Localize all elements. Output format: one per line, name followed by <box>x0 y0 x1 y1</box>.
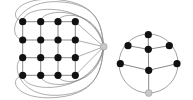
left-edges <box>15 0 104 98</box>
grid-node <box>72 18 79 25</box>
apex-node <box>100 43 107 50</box>
node-right <box>173 60 180 67</box>
grid-node <box>54 18 61 25</box>
apex-edge <box>75 47 103 58</box>
node-upper-left <box>124 42 131 49</box>
grid-node <box>54 36 61 43</box>
right-nodes <box>117 31 181 74</box>
apex-edge <box>23 47 104 88</box>
edge <box>149 64 177 71</box>
grid-node <box>37 36 44 43</box>
grid-node <box>19 36 26 43</box>
node-left <box>117 60 124 67</box>
grid-nodes <box>19 18 79 79</box>
grid-edges <box>23 22 76 76</box>
graph-figure <box>0 0 193 100</box>
node-lower-center <box>145 67 152 74</box>
node-upper-right <box>166 42 173 49</box>
grid-node <box>54 72 61 79</box>
node-center <box>145 46 152 53</box>
grid-node <box>19 72 26 79</box>
edge <box>120 64 148 71</box>
node-top <box>145 31 152 38</box>
apex-edge <box>23 9 104 46</box>
graph-drawings <box>0 0 193 100</box>
grid-node <box>72 54 79 61</box>
apex-node <box>145 90 152 97</box>
grid-node <box>72 72 79 79</box>
right-circular-graph-with-apex <box>117 31 181 96</box>
grid-node <box>37 18 44 25</box>
apex-edge <box>41 47 104 85</box>
left-grid-graph-with-apex <box>15 0 108 98</box>
grid-node <box>54 54 61 61</box>
grid-node <box>37 54 44 61</box>
grid-node <box>72 36 79 43</box>
grid-node <box>19 54 26 61</box>
grid-node <box>37 72 44 79</box>
grid-node <box>19 18 26 25</box>
